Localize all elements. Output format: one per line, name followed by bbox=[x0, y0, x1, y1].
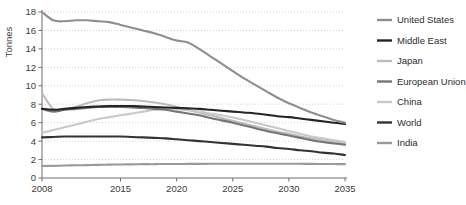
legend-label-china: China bbox=[397, 96, 423, 107]
x-axis: 200820152020202520302035 bbox=[31, 178, 355, 194]
series-line-world bbox=[42, 136, 345, 154]
y-axis-title-text: Tonnes bbox=[3, 26, 14, 57]
y-axis-title: Tonnes bbox=[3, 26, 14, 57]
x-tick-label: 2015 bbox=[110, 183, 131, 194]
y-tick-label: 0 bbox=[31, 172, 36, 183]
y-tick-label: 2 bbox=[31, 154, 36, 165]
legend-label-india: India bbox=[397, 137, 418, 148]
series-line-india bbox=[42, 164, 345, 166]
y-tick-label: 12 bbox=[25, 62, 36, 73]
legend-label-european-union: European Union bbox=[397, 76, 466, 87]
series-lines bbox=[42, 12, 345, 166]
chart-legend: United StatesMiddle EastJapanEuropean Un… bbox=[377, 14, 466, 148]
y-tick-label: 10 bbox=[25, 80, 36, 91]
series-line-european-union bbox=[42, 107, 345, 145]
legend-label-middle-east: Middle East bbox=[397, 35, 447, 46]
y-tick-label: 14 bbox=[25, 43, 36, 54]
x-tick-label: 2035 bbox=[334, 183, 355, 194]
chart-canvas: 024681012141618 200820152020202520302035… bbox=[0, 0, 466, 205]
legend-label-japan: Japan bbox=[397, 55, 423, 66]
x-tick-label: 2020 bbox=[166, 183, 187, 194]
legend-label-united-states: United States bbox=[397, 14, 454, 25]
x-tick-label: 2030 bbox=[278, 183, 299, 194]
line-chart-figure: 024681012141618 200820152020202520302035… bbox=[0, 0, 466, 205]
y-tick-label: 16 bbox=[25, 25, 36, 36]
x-tick-label: 2008 bbox=[31, 183, 52, 194]
legend-label-world: World bbox=[397, 117, 422, 128]
y-tick-label: 8 bbox=[31, 99, 36, 110]
y-tick-label: 6 bbox=[31, 117, 36, 128]
y-tick-label: 4 bbox=[31, 136, 36, 147]
y-axis: 024681012141618 bbox=[25, 6, 42, 183]
y-tick-label: 18 bbox=[25, 6, 36, 17]
x-tick-label: 2025 bbox=[222, 183, 243, 194]
